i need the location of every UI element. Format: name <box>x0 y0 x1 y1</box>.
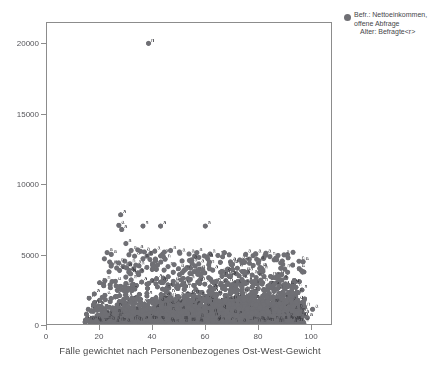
legend-marker-icon <box>344 14 351 21</box>
y-tick-mark <box>41 255 46 256</box>
y-tick-label: 0 <box>35 321 39 330</box>
plot-area <box>46 22 332 325</box>
y-tick-label: 20000 <box>17 39 39 48</box>
y-tick-label: 5000 <box>21 251 39 260</box>
x-tick-mark <box>311 325 312 330</box>
legend-line-1: Befr.: Nettoeinkommen, <box>354 11 427 20</box>
x-tick-mark <box>46 325 47 330</box>
y-tick-mark <box>41 114 46 115</box>
x-tick-label: 60 <box>185 332 225 341</box>
x-tick-label: 100 <box>291 332 331 341</box>
x-tick-mark <box>152 325 153 330</box>
x-tick-mark <box>99 325 100 330</box>
x-tick-mark <box>205 325 206 330</box>
y-tick-label: 15000 <box>17 110 39 119</box>
y-tick-mark <box>41 184 46 185</box>
legend: Befr.: Nettoeinkommen, offene Abfrage Al… <box>344 11 435 37</box>
legend-line-2: offene Abfrage <box>354 20 427 29</box>
legend-line-3: Alter: Befragte<r> <box>354 28 427 37</box>
scatter-plot-figure: 05000100001500020000 020406080100 Fälle … <box>0 0 435 370</box>
x-tick-mark <box>258 325 259 330</box>
x-tick-label: 80 <box>238 332 278 341</box>
x-axis-title: Fälle gewichtet nach Personenbezogenes O… <box>0 345 380 356</box>
x-tick-label: 40 <box>132 332 172 341</box>
x-tick-label: 20 <box>79 332 119 341</box>
x-tick-label: 0 <box>26 332 66 341</box>
legend-text: Befr.: Nettoeinkommen, offene Abfrage Al… <box>354 11 427 37</box>
y-tick-mark <box>41 43 46 44</box>
scatter-points-canvas <box>47 23 331 324</box>
y-tick-label: 10000 <box>17 180 39 189</box>
